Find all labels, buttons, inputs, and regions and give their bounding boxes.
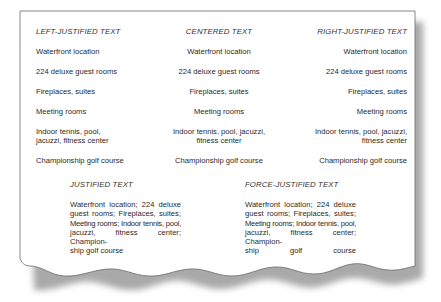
right-justified-column: RIGHT-JUSTIFIED TEXT Waterfront location…	[303, 27, 407, 165]
left-justified-column: LEFT-JUSTIFIED TEXT Waterfront location …	[36, 27, 146, 165]
justified-text-block: JUSTIFIED TEXT Waterfront location; 224 …	[70, 180, 181, 255]
list-item-line: Indoor tennis, pool, jacuzzi,	[303, 127, 407, 136]
list-item: Fireplaces, suites	[36, 87, 146, 96]
list-item: Waterfront location	[159, 47, 279, 56]
list-item: Indoor tennis, pool, jacuzzi, fitness ce…	[159, 127, 279, 145]
paragraph-line: guest rooms; Fireplaces, suites;	[245, 209, 356, 218]
list-item-line: fitness center	[303, 136, 407, 145]
centered-column: CENTERED TEXT Waterfront location 224 de…	[159, 27, 279, 165]
list-item: Championship golf course	[159, 156, 279, 165]
justified-heading: JUSTIFIED TEXT	[70, 180, 181, 189]
force-justified-paragraph: Waterfront location; 224 deluxe guest ro…	[245, 200, 356, 255]
list-item-line: Indoor tennis, pool, jacuzzi,	[159, 127, 279, 136]
word: golf	[290, 246, 302, 255]
torn-paper-illustration: LEFT-JUSTIFIED TEXT Waterfront location …	[0, 0, 441, 302]
word: course	[333, 246, 356, 255]
left-justified-heading: LEFT-JUSTIFIED TEXT	[36, 27, 146, 36]
right-justified-heading: RIGHT-JUSTIFIED TEXT	[303, 27, 407, 36]
paragraph-last-line: ship golf course	[245, 246, 356, 255]
centered-heading: CENTERED TEXT	[159, 27, 279, 36]
paragraph-line: Waterfront location; 224 deluxe	[245, 200, 356, 209]
paragraph-line: ship golf course	[70, 246, 181, 255]
list-item: 224 deluxe guest rooms	[159, 67, 279, 76]
list-item: 224 deluxe guest rooms	[36, 67, 146, 76]
list-item: Meeting rooms	[36, 107, 146, 116]
list-item: Fireplaces, suites	[159, 87, 279, 96]
list-item-line: jacuzzi, fitness center	[36, 136, 146, 145]
force-justified-text-block: FORCE-JUSTIFIED TEXT Waterfront location…	[245, 180, 356, 255]
list-item-line: Indoor tennis, pool,	[36, 127, 146, 136]
list-item: Meeting rooms	[159, 107, 279, 116]
list-item: Indoor tennis, pool, jacuzzi, fitness ce…	[36, 127, 146, 145]
list-item: Championship golf course	[36, 156, 146, 165]
list-item: Waterfront location	[36, 47, 146, 56]
paragraph-line: Meeting rooms; Indoor tennis, pool,	[70, 219, 181, 228]
force-justified-heading: FORCE-JUSTIFIED TEXT	[245, 180, 356, 189]
list-item: 224 deluxe guest rooms	[303, 67, 407, 76]
paragraph-line: Meeting rooms; Indoor tennis, pool,	[245, 219, 356, 228]
list-item: Meeting rooms	[303, 107, 407, 116]
list-item-line: fitness center	[159, 136, 279, 145]
list-item: Fireplaces, suites	[303, 87, 407, 96]
word: ship	[245, 246, 259, 255]
paragraph-line: jacuzzi, fitness center; Champion-	[245, 228, 356, 246]
list-item: Championship golf course	[303, 156, 407, 165]
paragraph-line: guest rooms; Fireplaces, suites;	[70, 209, 181, 218]
paragraph-line: Waterfront location; 224 deluxe	[70, 200, 181, 209]
justified-paragraph: Waterfront location; 224 deluxe guest ro…	[70, 200, 181, 255]
list-item: Indoor tennis, pool, jacuzzi, fitness ce…	[303, 127, 407, 145]
list-item: Waterfront location	[303, 47, 407, 56]
paragraph-line: jacuzzi, fitness center; Champion-	[70, 228, 181, 246]
